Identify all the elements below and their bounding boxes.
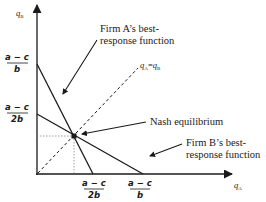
diagonal-label: qA=qB xyxy=(140,60,161,71)
x-tick-a-minus-c-over-2b: a − c 2b xyxy=(82,178,106,200)
nash-pointer-arrow xyxy=(82,122,146,134)
svg-text:a − c: a − c xyxy=(128,178,152,188)
nash-annotation: Nash equilibrium xyxy=(150,116,223,127)
y-tick-a-minus-c-over-b: a − c b xyxy=(5,52,29,74)
svg-text:a − c: a − c xyxy=(5,52,29,62)
firm-b-annotation: Firm B’s best- response function xyxy=(186,137,261,160)
x-tick-a-minus-c-over-b: a − c b xyxy=(128,178,152,200)
nash-equilibrium-point xyxy=(72,134,77,139)
x-axis-label: qA xyxy=(234,180,242,191)
firm-b-best-response-line xyxy=(37,114,143,174)
best-response-diagram: qB qA a − c b a − c 2b a − c 2b a − c b … xyxy=(0,0,266,202)
svg-text:2b: 2b xyxy=(11,114,23,124)
diagonal-line xyxy=(38,68,138,173)
firm-a-pointer-arrow xyxy=(63,40,97,94)
svg-text:b: b xyxy=(137,190,143,200)
svg-text:a − c: a − c xyxy=(82,178,106,188)
y-tick-a-minus-c-over-2b: a − c 2b xyxy=(5,102,29,124)
firm-a-annotation: Firm A’s best- response function xyxy=(100,23,175,46)
svg-text:a − c: a − c xyxy=(5,102,29,112)
y-axis-label: qB xyxy=(16,8,24,19)
svg-text:2b: 2b xyxy=(88,190,100,200)
svg-text:b: b xyxy=(14,64,20,74)
firm-b-pointer-arrow xyxy=(150,144,182,156)
